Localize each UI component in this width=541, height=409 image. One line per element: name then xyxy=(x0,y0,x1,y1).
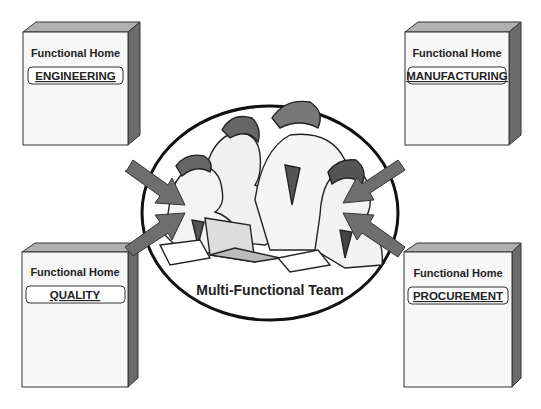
box-quality: Functional Home QUALITY xyxy=(22,243,138,387)
box-heading: Functional Home xyxy=(412,47,501,59)
department-label: QUALITY xyxy=(50,289,101,301)
department-label: PROCUREMENT xyxy=(413,290,503,302)
box-heading: Functional Home xyxy=(413,267,502,279)
box-procurement: Functional Home PROCUREMENT xyxy=(404,243,521,387)
box-engineering: Functional Home ENGINEERING xyxy=(23,22,140,145)
box-heading: Functional Home xyxy=(30,266,119,278)
box-manufacturing: Functional Home MANUFACTURING xyxy=(405,22,521,145)
box-heading: Functional Home xyxy=(31,47,120,59)
diagram-canvas: Functional Home ENGINEERING Functional H… xyxy=(0,0,541,409)
department-label: MANUFACTURING xyxy=(406,70,508,82)
team-label: Multi-Functional Team xyxy=(196,282,344,298)
department-label: ENGINEERING xyxy=(35,70,116,82)
